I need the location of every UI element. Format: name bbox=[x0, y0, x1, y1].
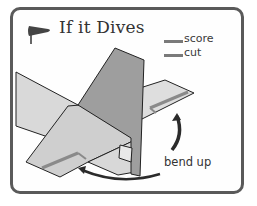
bend-up-arrow-right bbox=[172, 113, 181, 150]
legend-item-cut: cut bbox=[164, 46, 201, 59]
bend-up-label: bend up bbox=[164, 155, 211, 169]
score-line-swatch bbox=[164, 40, 183, 43]
cut-line-swatch bbox=[164, 54, 183, 57]
page-title: If it Dives bbox=[59, 17, 145, 37]
windsock-icon bbox=[28, 26, 50, 44]
legend-item-score: score bbox=[164, 32, 214, 45]
legend-label: score bbox=[184, 32, 214, 45]
legend-label: cut bbox=[184, 46, 201, 59]
